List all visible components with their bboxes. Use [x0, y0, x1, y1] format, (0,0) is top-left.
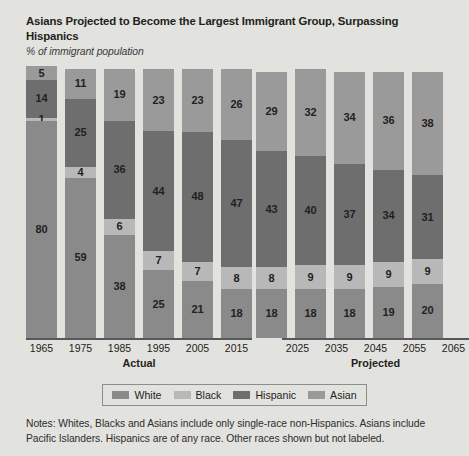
segment-black-2015: 8	[221, 267, 252, 289]
bar-2045[interactable]: 3437918	[334, 66, 365, 338]
segment-value-label: 18	[304, 308, 316, 319]
segment-value-label: 36	[113, 164, 125, 175]
segment-value-label: 26	[230, 99, 242, 110]
segment-white-2005: 21	[182, 281, 213, 338]
legend-swatch-hispanic-icon	[233, 391, 250, 399]
segment-asian-2015: 26	[221, 69, 252, 140]
legend-label: Black	[196, 389, 222, 401]
segment-asian-2045: 34	[334, 72, 365, 164]
segment-value-label: 23	[191, 95, 203, 106]
segment-black-2065: 9	[412, 259, 443, 283]
segment-black-2045: 9	[334, 265, 365, 289]
x-tick-2055: 2055	[399, 342, 430, 354]
segment-value-label: 19	[113, 89, 125, 100]
x-tick-2045: 2045	[360, 342, 391, 354]
segment-hispanic-2065: 31	[412, 175, 443, 259]
segment-white-2045: 18	[334, 289, 365, 338]
chart-legend: WhiteBlackHispanicAsian	[102, 384, 366, 406]
segment-value-label: 4	[77, 167, 83, 178]
x-tick-2035: 2035	[321, 342, 352, 354]
segment-value-label: 8	[268, 273, 274, 284]
legend-swatch-asian-icon	[308, 391, 325, 399]
segment-hispanic-2055: 34	[373, 170, 404, 262]
segment-hispanic-1985: 36	[104, 121, 135, 219]
x-tick-labels-actual: 196519751985199520052015	[26, 342, 252, 354]
legend-swatch-white-icon	[112, 391, 129, 399]
segment-value-label: 44	[152, 186, 164, 197]
segment-value-label: 5	[38, 68, 44, 79]
segment-value-label: 25	[152, 299, 164, 310]
segment-value-label: 36	[382, 115, 394, 126]
segment-value-label: 80	[35, 224, 47, 235]
x-tick-1965: 1965	[26, 342, 57, 354]
legend-item-asian[interactable]: Asian	[308, 389, 357, 401]
segment-hispanic-2015: 47	[221, 140, 252, 268]
legend-label: Hispanic	[255, 389, 296, 401]
segment-hispanic-2035: 40	[295, 156, 326, 265]
segment-hispanic-1995: 44	[143, 131, 174, 251]
segment-asian-1995: 23	[143, 69, 174, 132]
segment-value-label: 59	[74, 252, 86, 263]
axis-line-projected	[282, 338, 469, 340]
segment-hispanic-2025: 43	[256, 151, 287, 268]
segment-value-label: 19	[382, 307, 394, 318]
segment-asian-1975: 11	[65, 69, 96, 99]
segment-hispanic-2005: 48	[182, 132, 213, 263]
segment-value-label: 9	[307, 272, 313, 283]
x-tick-1985: 1985	[104, 342, 135, 354]
group-label-projected: Projected	[282, 357, 469, 369]
bar-2065[interactable]: 3831920	[412, 66, 443, 338]
bar-2035[interactable]: 3240918	[295, 66, 326, 338]
segment-value-label: 23	[152, 95, 164, 106]
segment-black-2025: 8	[256, 267, 287, 289]
bar-2015[interactable]: 2647818	[221, 66, 252, 338]
segment-white-2025: 18	[256, 289, 287, 338]
bar-2005[interactable]: 2348721	[182, 66, 213, 338]
bar-1965[interactable]: 514180	[26, 66, 57, 338]
legend-row: WhiteBlackHispanicAsian	[26, 384, 443, 406]
segment-value-label: 37	[343, 209, 355, 220]
legend-swatch-black-icon	[174, 391, 191, 399]
x-tick-2025: 2025	[282, 342, 313, 354]
segment-black-1975: 4	[65, 167, 96, 178]
legend-item-black[interactable]: Black	[174, 389, 222, 401]
segment-value-label: 25	[74, 127, 86, 138]
bar-1985[interactable]: 1936638	[104, 66, 135, 338]
segment-asian-2035: 32	[295, 69, 326, 156]
segment-hispanic-1975: 25	[65, 99, 96, 167]
segment-value-label: 7	[155, 255, 161, 266]
segment-white-1965: 80	[26, 121, 57, 339]
segment-value-label: 14	[35, 93, 47, 104]
bar-1995[interactable]: 2344725	[143, 66, 174, 338]
segment-asian-2055: 36	[373, 72, 404, 170]
legend-item-white[interactable]: White	[112, 389, 161, 401]
segment-white-1995: 25	[143, 270, 174, 338]
stacked-bar-chart: 5141801125459193663823447252348721264781…	[26, 66, 443, 338]
segment-value-label: 8	[233, 273, 239, 284]
segment-white-1975: 59	[65, 178, 96, 338]
segment-black-1985: 6	[104, 219, 135, 235]
segment-white-2055: 19	[373, 287, 404, 339]
segment-asian-1985: 19	[104, 69, 135, 121]
axis-line-actual	[26, 338, 252, 340]
page-title: Asians Projected to Become the Largest I…	[26, 14, 443, 43]
x-tick-2065: 2065	[438, 342, 469, 354]
segment-value-label: 6	[116, 221, 122, 232]
chart-subtitle: % of immigrant population	[26, 46, 443, 57]
legend-label: Asian	[330, 389, 357, 401]
segment-value-label: 11	[75, 78, 87, 89]
segment-black-2005: 7	[182, 262, 213, 281]
bar-1975[interactable]: 1125459	[65, 66, 96, 338]
bar-2025[interactable]: 2943818	[256, 66, 287, 338]
segment-value-label: 7	[194, 266, 200, 277]
segment-black-2035: 9	[295, 265, 326, 289]
segment-asian-2005: 23	[182, 69, 213, 132]
segment-value-label: 38	[113, 281, 125, 292]
legend-item-hispanic[interactable]: Hispanic	[233, 389, 296, 401]
segment-value-label: 32	[304, 107, 316, 118]
segment-value-label: 9	[385, 269, 391, 280]
segment-white-2035: 18	[295, 289, 326, 338]
bar-2055[interactable]: 3634919	[373, 66, 404, 338]
x-tick-1975: 1975	[65, 342, 96, 354]
